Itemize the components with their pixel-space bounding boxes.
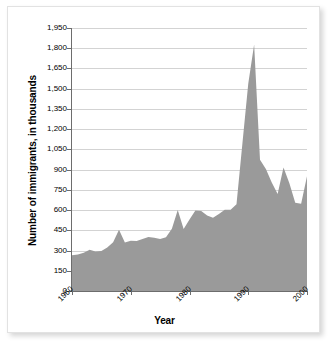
y-axis-tick-mark	[67, 190, 71, 191]
x-axis-title: Year	[8, 315, 321, 326]
area-chart: Number of immigrants, in thousands 01503…	[8, 7, 321, 334]
area-series	[72, 28, 307, 291]
y-axis-tick-mark	[67, 68, 71, 69]
y-axis-tick-mark	[67, 149, 71, 150]
y-axis-tick-mark	[67, 251, 71, 252]
y-axis-tick-mark	[67, 109, 71, 110]
y-axis-tick-mark	[67, 89, 71, 90]
y-axis-tick-label: 1,950	[27, 24, 67, 32]
y-axis-tick-label: 600	[27, 206, 67, 214]
y-axis-tick-label: 1,050	[27, 145, 67, 153]
y-axis-tick-mark	[67, 210, 71, 211]
y-axis-tick-label: 450	[27, 226, 67, 234]
y-axis-tick-label: 1,350	[27, 105, 67, 113]
y-axis-tick-label: 1,200	[27, 125, 67, 133]
y-axis-tick-label: 300	[27, 247, 67, 255]
y-axis-tick-label: 1,800	[27, 44, 67, 52]
chart-card: Number of immigrants, in thousands 01503…	[7, 6, 320, 333]
y-axis-tick-label: 150	[27, 267, 67, 275]
y-axis-tick-labels: 01503004506007509001,0501,2001,3501,5001…	[25, 28, 67, 291]
y-axis-tick-mark	[67, 129, 71, 130]
y-axis-tick-mark	[67, 230, 71, 231]
y-axis-tick-label: 900	[27, 166, 67, 174]
y-axis-tick-mark	[67, 271, 71, 272]
y-axis-tick-mark	[67, 170, 71, 171]
y-axis-tick-mark	[67, 48, 71, 49]
y-axis-tick-label: 1,500	[27, 85, 67, 93]
y-axis-tick-label: 1,650	[27, 64, 67, 72]
y-axis-tick-label: 750	[27, 186, 67, 194]
y-axis-tick-mark	[67, 28, 71, 29]
